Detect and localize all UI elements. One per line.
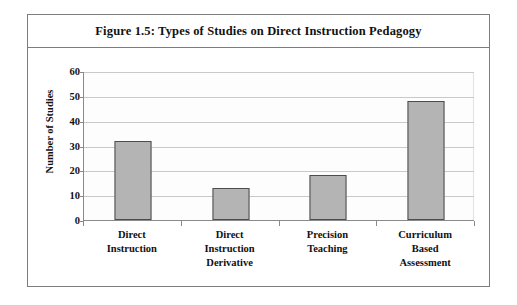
x-axis-category-labels: DirectInstructionDirectInstructionDeriva… xyxy=(83,228,474,286)
x-axis-category-label-line: Instruction xyxy=(181,242,279,256)
bar-band xyxy=(182,72,280,220)
plot-area xyxy=(83,72,474,221)
x-axis-tick-mark xyxy=(376,221,377,226)
y-axis-tick-label: 30 xyxy=(56,141,80,152)
y-axis-tick-label: 20 xyxy=(56,166,80,177)
y-axis-tick-label: 60 xyxy=(56,67,80,78)
x-axis-tick-mark xyxy=(279,221,280,226)
x-axis-category-label-line: Assessment xyxy=(376,256,474,270)
y-axis-tick-label: 40 xyxy=(56,116,80,127)
bars-layer xyxy=(84,72,474,220)
y-axis-tick-mark xyxy=(79,221,83,222)
x-axis-tick-mark xyxy=(181,221,182,226)
y-axis-tick-label: 50 xyxy=(56,92,80,103)
figure-title-band: Figure 1.5: Types of Studies on Direct I… xyxy=(28,15,489,48)
x-axis-category-label-line: Curriculum xyxy=(376,228,474,242)
bar[interactable] xyxy=(310,175,347,220)
bar-band xyxy=(377,72,475,220)
x-axis-category-label: DirectInstruction xyxy=(83,228,181,256)
x-axis-category-label-line: Instruction xyxy=(83,242,181,256)
x-axis-category-label-line: Derivative xyxy=(181,256,279,270)
x-axis-category-label: DirectInstructionDerivative xyxy=(181,228,279,270)
x-axis-category-label-line: Direct xyxy=(181,228,279,242)
bar[interactable] xyxy=(114,141,151,220)
x-axis-category-label-line: Precision xyxy=(279,228,377,242)
y-axis-title: Number of Studies xyxy=(44,67,55,197)
chart-area: Number of Studies 0102030405060 DirectIn… xyxy=(28,48,491,287)
y-axis-tick-mark xyxy=(79,97,83,98)
x-axis-tick-mark xyxy=(474,221,475,226)
y-axis-tick-label: 0 xyxy=(56,216,80,227)
bar-band xyxy=(84,72,182,220)
y-axis-tick-mark xyxy=(79,147,83,148)
y-axis-tick-labels: 0102030405060 xyxy=(56,72,80,221)
x-axis-tick-mark xyxy=(83,221,84,226)
y-axis-tick-mark xyxy=(79,196,83,197)
bar[interactable] xyxy=(212,188,249,220)
y-axis-tick-label: 10 xyxy=(56,191,80,202)
x-axis-category-label-line: Teaching xyxy=(279,242,377,256)
bar[interactable] xyxy=(408,101,445,220)
y-axis-tick-mark xyxy=(79,171,83,172)
figure-title: Figure 1.5: Types of Studies on Direct I… xyxy=(95,24,421,39)
x-axis-category-label-line: Based xyxy=(376,242,474,256)
x-axis-category-label: PrecisionTeaching xyxy=(279,228,377,256)
y-axis-tick-mark xyxy=(79,122,83,123)
x-axis-category-label-line: Direct xyxy=(83,228,181,242)
y-axis-tick-mark xyxy=(79,72,83,73)
bar-band xyxy=(280,72,378,220)
figure-frame: Figure 1.5: Types of Studies on Direct I… xyxy=(27,14,490,287)
x-axis-category-label: CurriculumBasedAssessment xyxy=(376,228,474,270)
